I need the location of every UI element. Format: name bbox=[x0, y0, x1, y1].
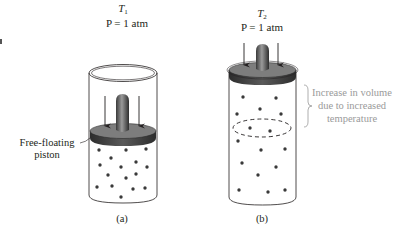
gas-particle bbox=[109, 156, 112, 159]
temperature-label-a: T1 bbox=[118, 2, 128, 16]
annotation-line2: due to increased bbox=[318, 100, 387, 111]
gas-particle bbox=[241, 95, 244, 98]
gas-particle bbox=[279, 112, 282, 115]
gas-particle bbox=[124, 176, 127, 179]
gas-particle bbox=[274, 96, 277, 99]
gas-particle bbox=[283, 147, 286, 150]
piston-a bbox=[90, 94, 156, 146]
gas-particle bbox=[240, 161, 243, 164]
annotation-line1: Increase in volume bbox=[312, 87, 392, 98]
gas-particle bbox=[124, 148, 127, 151]
brace-icon bbox=[304, 85, 312, 127]
gas-particle bbox=[145, 165, 148, 168]
cylinder-a bbox=[89, 65, 157, 204]
gas-particle bbox=[98, 163, 101, 166]
piston-rod bbox=[256, 44, 269, 71]
temperature-label-b: T2 bbox=[257, 7, 267, 21]
piston-rod bbox=[116, 94, 129, 132]
gas-particle bbox=[131, 187, 134, 190]
edge-mark bbox=[0, 39, 2, 44]
gas-particles-b bbox=[235, 95, 286, 193]
gas-particle bbox=[256, 173, 259, 176]
caption-b: (b) bbox=[256, 213, 269, 225]
gas-particle bbox=[95, 185, 98, 188]
gas-particle bbox=[134, 160, 137, 163]
piston-label-line1: Free-floating bbox=[20, 137, 76, 148]
pressure-label-b: P = 1 atm bbox=[241, 21, 284, 33]
gas-particle bbox=[259, 148, 262, 151]
gas-particle bbox=[97, 148, 100, 151]
gas-particle bbox=[236, 139, 239, 142]
cylinder-b bbox=[227, 43, 298, 205]
caption-a: (a) bbox=[116, 213, 128, 225]
cylinder-rim bbox=[89, 65, 157, 82]
gas-particle bbox=[110, 184, 113, 187]
gas-particle bbox=[268, 129, 271, 132]
gas-particle bbox=[119, 195, 122, 198]
gas-particle bbox=[144, 147, 147, 150]
gas-particle bbox=[134, 172, 137, 175]
annotation-line3: temperature bbox=[327, 113, 377, 124]
gas-particle bbox=[258, 107, 261, 110]
gas-particle bbox=[106, 173, 109, 176]
gas-particle bbox=[266, 190, 269, 193]
gas-particle bbox=[119, 165, 122, 168]
gas-expansion-diagram: T1 P = 1 atm Free-floating piston (a) T2… bbox=[0, 0, 398, 238]
gas-particle bbox=[235, 112, 238, 115]
original-volume-outline bbox=[233, 119, 291, 137]
piston-label-line2: piston bbox=[34, 149, 60, 160]
gas-particle bbox=[274, 165, 277, 168]
pressure-label-a: P = 1 atm bbox=[106, 17, 149, 29]
gas-particle bbox=[237, 188, 240, 191]
gas-particle bbox=[143, 186, 146, 189]
gas-particles-a bbox=[95, 147, 148, 198]
gas-particle bbox=[283, 188, 286, 191]
gas-particle bbox=[248, 126, 251, 129]
leader-line bbox=[80, 138, 90, 143]
piston-b bbox=[227, 44, 298, 85]
